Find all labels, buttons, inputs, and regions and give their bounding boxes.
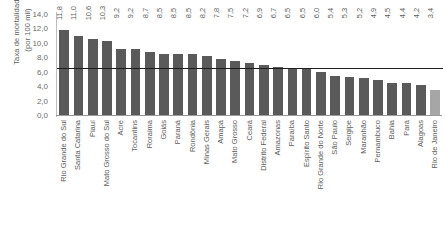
bar-value-label: 6,5	[283, 8, 292, 18]
category-label: Rondônia	[189, 120, 197, 152]
bar-value-label: 9,2	[112, 8, 121, 18]
bar[interactable]: 8,5	[188, 54, 198, 115]
category-slot: Goiás	[157, 118, 171, 246]
bar-slot: 7,5	[228, 14, 242, 115]
category-slot: Alagoas	[414, 118, 428, 246]
bar-slot: 3,4	[428, 14, 442, 115]
category-slot: Sergipe	[342, 118, 356, 246]
bar-value-label: 7,5	[226, 8, 235, 18]
bar[interactable]: 8,5	[173, 54, 183, 115]
y-axis-tick: 0,0	[37, 111, 48, 120]
category-slot: Rondônia	[185, 118, 199, 246]
category-slot: Mato Grosso do Sul	[100, 118, 114, 246]
bar[interactable]: 7,2	[245, 63, 255, 115]
bar[interactable]: 9,2	[116, 49, 126, 115]
category-slot: Pernambuco	[371, 118, 385, 246]
bar[interactable]: 5,3	[345, 77, 355, 115]
bar-value-label: 8,5	[184, 8, 193, 18]
category-slot: São Paulo	[328, 118, 342, 246]
bar[interactable]: 9,2	[131, 49, 141, 115]
bar[interactable]: 10,3	[102, 41, 112, 115]
bar[interactable]: 3,4	[430, 90, 440, 115]
bar-value-label: 11,0	[69, 6, 78, 20]
category-label: Ceará	[246, 120, 254, 140]
category-slot: Santa Catarina	[71, 118, 85, 246]
bar-value-label: 8,5	[155, 8, 164, 18]
category-slot: Paraná	[171, 118, 185, 246]
y-axis-tick: 14,0	[32, 10, 48, 19]
bar[interactable]: 6,5	[302, 68, 312, 115]
x-axis-line	[56, 115, 442, 116]
category-label: Bahia	[388, 120, 396, 139]
bar[interactable]: 4,9	[373, 80, 383, 115]
category-label: Rio Grande do Norte	[317, 120, 325, 189]
bar-slot: 9,2	[114, 14, 128, 115]
bar-slot: 6,5	[285, 14, 299, 115]
bar[interactable]: 11,0	[74, 36, 84, 115]
category-slot: Mato Grosso	[228, 118, 242, 246]
bar[interactable]: 8,7	[145, 52, 155, 115]
bar[interactable]: 10,6	[88, 39, 98, 115]
bar[interactable]: 5,4	[330, 76, 340, 115]
bar[interactable]: 6,0	[316, 72, 326, 115]
category-label: Espírito Santo	[303, 120, 311, 167]
bar[interactable]: 11,8	[59, 30, 69, 115]
category-slot: Minas Gerais	[200, 118, 214, 246]
bar-value-label: 5,4	[326, 8, 335, 18]
bar[interactable]: 4,5	[387, 83, 397, 115]
category-label: Acre	[117, 120, 125, 135]
category-slot: Rio Grande do Sul	[57, 118, 71, 246]
bar-slot: 6,9	[257, 14, 271, 115]
category-label: Paraná	[174, 120, 182, 144]
x-axis-category-labels: Rio Grande do SulSanta CatarinaPiauíMato…	[57, 118, 442, 246]
bar-value-label: 6,7	[269, 8, 278, 18]
category-label: Alagoas	[417, 120, 425, 147]
bar-slot: 6,7	[271, 14, 285, 115]
bar-slot: 5,3	[342, 14, 356, 115]
bar-slot: 6,5	[300, 14, 314, 115]
bar[interactable]: 6,5	[288, 68, 298, 115]
bar-value-label: 8,7	[141, 8, 150, 18]
y-axis-tick: 6,0	[37, 67, 48, 76]
category-label: Paraíba	[288, 120, 296, 146]
bar[interactable]: 4,2	[416, 85, 426, 115]
category-label: Pernambuco	[374, 120, 382, 163]
category-slot: Bahia	[385, 118, 399, 246]
bar-slot: 6,0	[314, 14, 328, 115]
bar-value-label: 9,2	[126, 8, 135, 18]
category-label: Roraima	[146, 120, 154, 148]
category-label: Mato Grosso do Sul	[103, 120, 111, 186]
category-label: Goiás	[160, 120, 168, 140]
y-axis-tick: 4,0	[37, 82, 48, 91]
category-label: São Paulo	[331, 120, 339, 155]
category-label: Amazonas	[274, 120, 282, 155]
bar[interactable]: 8,2	[202, 56, 212, 115]
bar-slot: 7,8	[214, 14, 228, 115]
bar-slot: 11,8	[57, 14, 71, 115]
category-slot: Rio de Janeiro	[428, 118, 442, 246]
category-label: Santa Catarina	[74, 120, 82, 170]
bar-value-label: 10,6	[84, 6, 93, 21]
bar-slot: 4,5	[385, 14, 399, 115]
bar-slot: 9,2	[128, 14, 142, 115]
category-slot: Tocantins	[128, 118, 142, 246]
bar[interactable]: 4,4	[402, 83, 412, 115]
bar[interactable]: 6,9	[259, 65, 269, 115]
bar[interactable]: 6,7	[273, 67, 283, 115]
bar-series: 11,811,010,610,39,29,28,78,58,58,58,27,8…	[57, 14, 442, 115]
category-label: Maranhão	[360, 120, 368, 154]
category-label: Mato Grosso	[231, 120, 239, 163]
bar-slot: 7,2	[242, 14, 256, 115]
bar-slot: 10,3	[100, 14, 114, 115]
bar[interactable]: 5,2	[359, 78, 369, 116]
category-slot: Espírito Santo	[300, 118, 314, 246]
bar[interactable]: 8,5	[159, 54, 169, 115]
category-label: Rio de Janeiro	[431, 120, 439, 168]
bar-value-label: 7,2	[241, 8, 250, 18]
category-label: Distrito Federal	[260, 120, 268, 171]
category-label: Pará	[403, 120, 411, 136]
bar-value-label: 6,5	[298, 8, 307, 18]
category-slot: Paraíba	[285, 118, 299, 246]
bar-slot: 8,2	[200, 14, 214, 115]
plot-area: 11,811,010,610,39,29,28,78,58,58,58,27,8…	[57, 14, 442, 115]
